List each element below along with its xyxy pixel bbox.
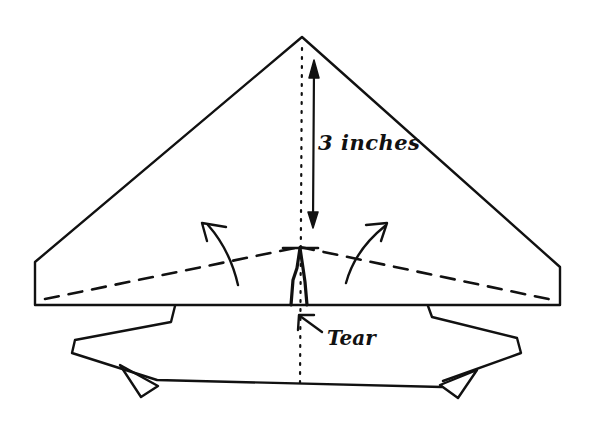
- tear-label: Tear: [327, 326, 376, 350]
- tear-slit: [291, 248, 307, 305]
- dashed-fold-line-left: [45, 247, 300, 299]
- dimension-arrow-head-top: [309, 60, 319, 78]
- dimension-label: 3 inches: [318, 130, 420, 155]
- tear-pointer-arrow: [300, 316, 322, 332]
- fold-arrow-right: [346, 226, 385, 283]
- fold-arrow-left: [208, 225, 238, 285]
- dimension-arrow-line: [313, 68, 314, 222]
- paper-airplane-diagram: [0, 0, 593, 435]
- dimension-arrow-head-bottom: [308, 212, 318, 228]
- center-fold-line: [300, 48, 302, 385]
- dashed-fold-line-right: [300, 247, 553, 300]
